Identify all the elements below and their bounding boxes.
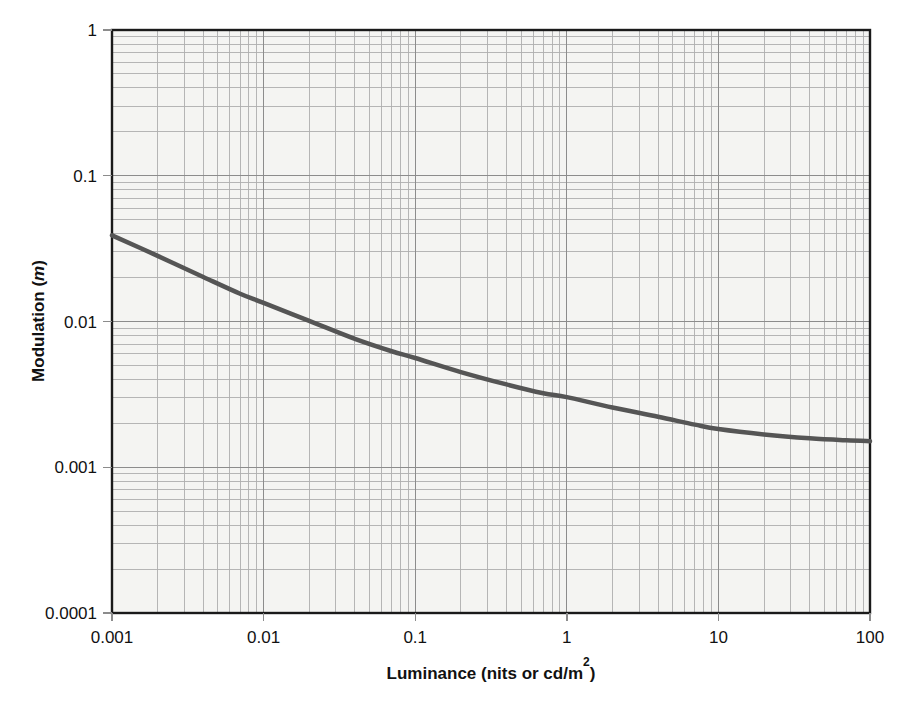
- y-tick-label: 1: [88, 21, 97, 40]
- x-axis-title: Luminance (nits or cd/m2): [387, 655, 596, 683]
- y-tick-label: 0.1: [73, 167, 97, 186]
- y-tick-label: 0.0001: [45, 604, 97, 623]
- x-tick-label: 0.01: [247, 628, 280, 647]
- y-tick-label: 0.01: [64, 313, 97, 332]
- x-tick-label: 1: [562, 628, 571, 647]
- chart-svg: 0.0010.010.1110100 0.00010.0010.010.11 L…: [0, 0, 910, 711]
- x-axis-title-tail: ): [590, 664, 596, 683]
- x-tick-label: 0.1: [403, 628, 427, 647]
- x-tick-label: 100: [856, 628, 884, 647]
- y-axis-title-symbol: m: [29, 266, 48, 281]
- x-axis-title-text: Luminance (nits or cd/m: [387, 664, 583, 683]
- x-tick-label: 0.001: [91, 628, 134, 647]
- y-axis-title-tail: ): [29, 260, 48, 266]
- y-tick-label: 0.001: [54, 458, 97, 477]
- y-axis-tick-labels: 0.00010.0010.010.11: [45, 21, 97, 623]
- y-axis-title: Modulation (m): [29, 260, 48, 382]
- y-axis-title-text: Modulation (: [29, 281, 48, 382]
- x-axis-tick-labels: 0.0010.010.1110100: [91, 628, 884, 647]
- x-tick-label: 10: [709, 628, 728, 647]
- figure-container: 0.0010.010.1110100 0.00010.0010.010.11 L…: [0, 0, 910, 711]
